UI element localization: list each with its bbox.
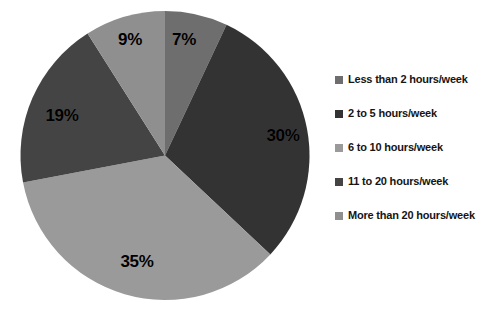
legend-color-swatch-icon	[335, 110, 343, 118]
legend-item[interactable]: 11 to 20 hours/week	[335, 176, 482, 187]
legend-item-label: 11 to 20 hours/week	[348, 176, 448, 187]
legend-item-label: 6 to 10 hours/week	[348, 142, 443, 153]
legend-color-swatch-icon	[335, 144, 343, 152]
legend-color-swatch-icon	[335, 212, 343, 220]
legend-item[interactable]: More than 20 hours/week	[335, 210, 482, 221]
pie-slice-value-label: 19%	[45, 106, 78, 126]
pie-slice-value-label: 7%	[172, 30, 196, 50]
pie-slice-value-label: 35%	[120, 252, 153, 272]
chart-legend: Less than 2 hours/week2 to 5 hours/week6…	[335, 74, 482, 244]
legend-item-label: Less than 2 hours/week	[348, 74, 468, 85]
legend-color-swatch-icon	[335, 76, 343, 84]
pie-slice-value-label: 30%	[266, 126, 299, 146]
legend-item[interactable]: Less than 2 hours/week	[335, 74, 482, 85]
legend-item[interactable]: 6 to 10 hours/week	[335, 142, 482, 153]
pie-chart-svg	[0, 0, 330, 316]
legend-item-label: 2 to 5 hours/week	[348, 108, 437, 119]
legend-color-swatch-icon	[335, 178, 343, 186]
pie-slices-group	[20, 11, 309, 300]
pie-slice-value-label: 9%	[118, 30, 142, 50]
legend-item[interactable]: 2 to 5 hours/week	[335, 108, 482, 119]
pie-chart-figure: 7%30%35%19%9% Less than 2 hours/week2 to…	[0, 0, 482, 316]
pie-chart-plot-area: 7%30%35%19%9%	[0, 0, 330, 316]
legend-item-label: More than 20 hours/week	[348, 210, 475, 221]
